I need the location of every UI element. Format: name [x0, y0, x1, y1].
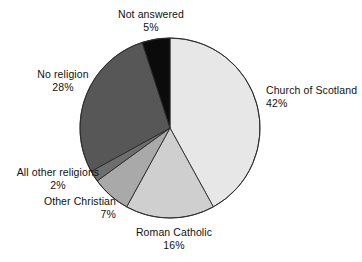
- slice-label-roman-catholic: Roman Catholic 16%: [114, 226, 234, 251]
- slice-label-value: 42%: [266, 97, 362, 110]
- slice-label-all-other-religions: All other religions 2%: [0, 166, 116, 191]
- slice-label-value: 2%: [0, 179, 116, 192]
- slice-label-value: 5%: [96, 21, 206, 34]
- pie-chart-figure: Not answered 5% Church of Scotland 42% R…: [0, 0, 362, 262]
- pie-slice-group: [80, 38, 260, 218]
- slice-label-not-answered: Not answered 5%: [96, 8, 206, 33]
- slice-label-value: 7%: [8, 208, 116, 221]
- slice-label-name: All other religions: [0, 166, 116, 179]
- slice-label-name: Other Christian: [8, 195, 116, 208]
- slice-label-value: 28%: [18, 81, 108, 94]
- slice-label-name: No religion: [18, 68, 108, 81]
- slice-label-name: Not answered: [96, 8, 206, 21]
- slice-label-value: 16%: [114, 239, 234, 252]
- slice-label-name: Roman Catholic: [114, 226, 234, 239]
- pie-chart-canvas: [0, 0, 362, 262]
- slice-label-name: Church of Scotland: [266, 84, 362, 97]
- slice-label-other-christian: Other Christian 7%: [8, 195, 116, 220]
- slice-label-church-of-scotland: Church of Scotland 42%: [266, 84, 362, 109]
- slice-label-no-religion: No religion 28%: [18, 68, 108, 93]
